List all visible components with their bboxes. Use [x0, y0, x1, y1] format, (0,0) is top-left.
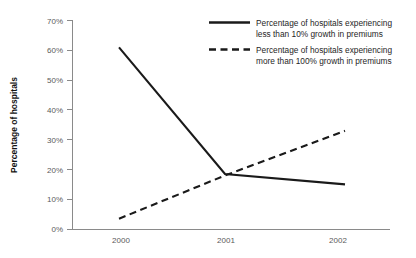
- y-tick-label-50: 50%: [47, 76, 63, 85]
- legend-entry-1-line-2: less than 10% growth in premiums: [256, 29, 383, 39]
- y-axis-title: Percentage of hospitals: [9, 77, 19, 173]
- x-tick-label-2002: 2002: [329, 236, 347, 245]
- legend-entry-2-line-1: Percentage of hospitals experiencing: [256, 45, 392, 55]
- chart-background: [0, 0, 416, 258]
- y-tick-label-0: 0%: [51, 225, 63, 234]
- line-chart: 70% 60% 50% 40% 30% 20% 10% 0% Percentag…: [0, 0, 416, 258]
- legend-entry-2-line-2: more than 100% growth in premiums: [256, 56, 392, 66]
- chart-screenshot: 70% 60% 50% 40% 30% 20% 10% 0% Percentag…: [0, 0, 416, 258]
- x-tick-label-2001: 2001: [217, 236, 235, 245]
- y-tick-label-30: 30%: [47, 136, 63, 145]
- y-tick-label-20: 20%: [47, 166, 63, 175]
- y-tick-label-10: 10%: [47, 195, 63, 204]
- x-tick-label-2000: 2000: [112, 236, 130, 245]
- y-tick-label-60: 60%: [47, 46, 63, 55]
- y-tick-label-70: 70%: [47, 17, 63, 26]
- y-tick-label-40: 40%: [47, 106, 63, 115]
- legend-entry-1-line-1: Percentage of hospitals experiencing: [256, 18, 392, 28]
